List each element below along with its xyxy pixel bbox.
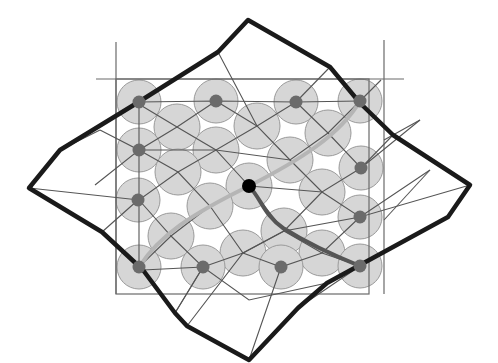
center-node-icon (242, 179, 256, 193)
node-dot-icon (354, 211, 367, 224)
node-dot-icon (133, 261, 146, 274)
mesh-diagram (0, 0, 498, 363)
node-dot-icon (197, 261, 210, 274)
grid-line (384, 170, 430, 220)
node-dot-icon (290, 96, 303, 109)
node-dot-icon (132, 194, 145, 207)
node-dot-icon (354, 260, 367, 273)
diagram-canvas: Deformed mesh with circle-packed nodes a… (0, 0, 498, 363)
node-dot-icon (133, 144, 146, 157)
node-dot-icon (354, 95, 367, 108)
node-dot-icon (133, 96, 146, 109)
node-dot-icon (210, 95, 223, 108)
node-dot-icon (275, 261, 288, 274)
node-dot-icon (355, 162, 368, 175)
